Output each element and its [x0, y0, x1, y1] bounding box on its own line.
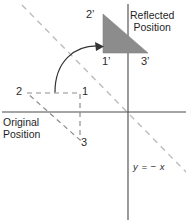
mirror-line-equation-label: y = − x [133, 161, 165, 172]
original-caption-line2: Position [3, 128, 40, 140]
reflected-position-caption: ReflectedPosition [130, 9, 174, 34]
original-caption-line1: Original [3, 116, 39, 128]
vertex-label-2-prime: 2’ [86, 8, 95, 21]
vertex-label-2: 2 [16, 85, 22, 98]
transformation-arrow [55, 42, 104, 92]
vertex-label-3-prime: 3’ [141, 55, 150, 68]
original-position-caption: OriginalPosition [3, 116, 40, 141]
vertex-label-1: 1 [82, 85, 88, 98]
reflection-diagram: ReflectedPosition OriginalPosition y = −… [0, 0, 186, 220]
reflected-caption-line1: Reflected [130, 9, 174, 21]
vertex-label-1-prime: 1’ [102, 55, 111, 68]
reflected-caption-line2: Position [134, 21, 171, 33]
vertex-label-3: 3 [81, 136, 87, 149]
